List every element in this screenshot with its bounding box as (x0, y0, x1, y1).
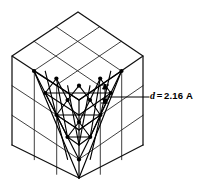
atom-node (77, 120, 81, 124)
atom-node (88, 98, 92, 102)
atom-node (66, 98, 70, 102)
atom-node (32, 69, 36, 73)
atom-node (77, 157, 81, 161)
cube-outline (12, 12, 143, 178)
atom-node (43, 91, 47, 95)
crystal-figure: d=2.16 A (0, 0, 212, 186)
atom-node (88, 135, 92, 139)
cube-right-face-grid (79, 71, 143, 175)
atom-node (54, 76, 58, 80)
atom-node (109, 91, 113, 95)
crystal-diagram-svg (0, 0, 212, 186)
atom-node (65, 135, 69, 139)
atom-node (98, 113, 102, 117)
cube-left-face-grid (12, 71, 79, 175)
atom-node (77, 84, 81, 88)
atom-node (119, 69, 123, 73)
atom-node (98, 76, 102, 80)
d-dimension-arrow (101, 84, 109, 104)
atom-node (54, 113, 58, 117)
